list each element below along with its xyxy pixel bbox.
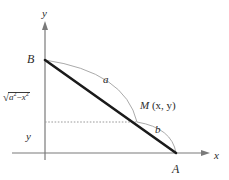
radical-group: √a2−x2 (3, 92, 30, 103)
point-m-label: M (x, y) (140, 100, 176, 111)
point-b-label: B (27, 53, 34, 65)
y-axis-label: y (42, 8, 47, 19)
radicand-exponent-2: 2 (26, 91, 29, 97)
geometry-figure: y x B A M (x, y) a b y √a2−x2 (0, 0, 229, 180)
point-m-name: M (140, 99, 149, 111)
point-a-label: A (172, 163, 179, 175)
figure-canvas (0, 0, 229, 180)
arc-a-label: a (103, 74, 109, 85)
side-y-label: y (26, 131, 31, 142)
y-axis-arrowhead-icon (42, 21, 48, 30)
arc-b-label: b (155, 124, 161, 135)
radicand: a2−x2 (8, 92, 30, 102)
x-axis-label: x (214, 150, 219, 161)
sqrt-expression-label: √a2−x2 (3, 92, 30, 103)
point-m-coordinates: (x, y) (152, 99, 176, 111)
x-axis-arrowhead-icon (201, 150, 210, 156)
